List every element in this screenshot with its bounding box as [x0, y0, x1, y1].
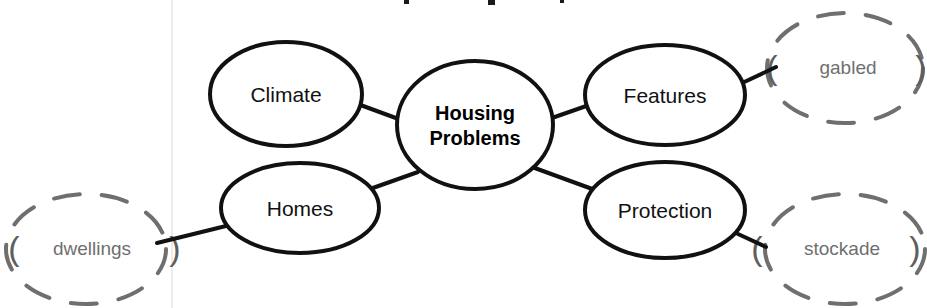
stockade-label: stockade: [804, 238, 880, 259]
dwellings-left-paren: (: [8, 229, 20, 267]
center-label-line2: Problems: [429, 127, 520, 149]
node-homes[interactable]: Homes: [221, 163, 379, 253]
ghost-node-dwellings[interactable]: ( dwellings ): [6, 194, 181, 304]
cropped-title-fragment: [404, 0, 564, 5]
features-label: Features: [624, 84, 707, 107]
edge-center-homes: [370, 172, 418, 189]
stockade-right-paren: ): [909, 229, 920, 267]
stockade-left-paren: (: [751, 229, 763, 267]
ghost-node-stockade[interactable]: ( stockade ): [751, 194, 925, 304]
node-features[interactable]: Features: [585, 45, 745, 145]
concept-map-diagram: ( gabled ) ( dwellings ) ( stockade ): [0, 0, 927, 308]
gabled-right-paren: ): [915, 48, 926, 86]
gabled-label: gabled: [819, 57, 876, 78]
climate-label: Climate: [250, 83, 321, 106]
node-protection[interactable]: Protection: [585, 162, 745, 258]
center-label-line1: Housing: [435, 102, 515, 124]
node-center-housing-problems[interactable]: Housing Problems: [397, 61, 553, 189]
protection-label: Protection: [618, 199, 713, 222]
ghost-node-gabled[interactable]: ( gabled ): [766, 13, 926, 123]
diagram-canvas: ( gabled ) ( dwellings ) ( stockade ): [0, 0, 927, 308]
edge-homes-dwellings: [157, 226, 226, 243]
edge-center-protection: [532, 167, 595, 190]
dwellings-label: dwellings: [53, 238, 131, 259]
homes-label: Homes: [267, 197, 334, 220]
dwellings-right-paren: ): [169, 229, 180, 267]
node-climate[interactable]: Climate: [210, 42, 362, 146]
center-ellipse: [397, 61, 553, 189]
